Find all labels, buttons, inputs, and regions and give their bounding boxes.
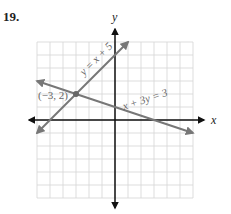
y-axis-label: y — [111, 10, 118, 24]
intersection-point — [73, 91, 79, 97]
coordinate-graph: x y y = x + 5 x + 3y = 3 (−3, 2) — [0, 0, 231, 214]
line1-label: y = x + 5 — [76, 40, 115, 79]
x-axis-label: x — [210, 113, 217, 127]
line2-label: x + 3y = 3 — [120, 86, 169, 112]
point-label: (−3, 2) — [38, 89, 68, 102]
